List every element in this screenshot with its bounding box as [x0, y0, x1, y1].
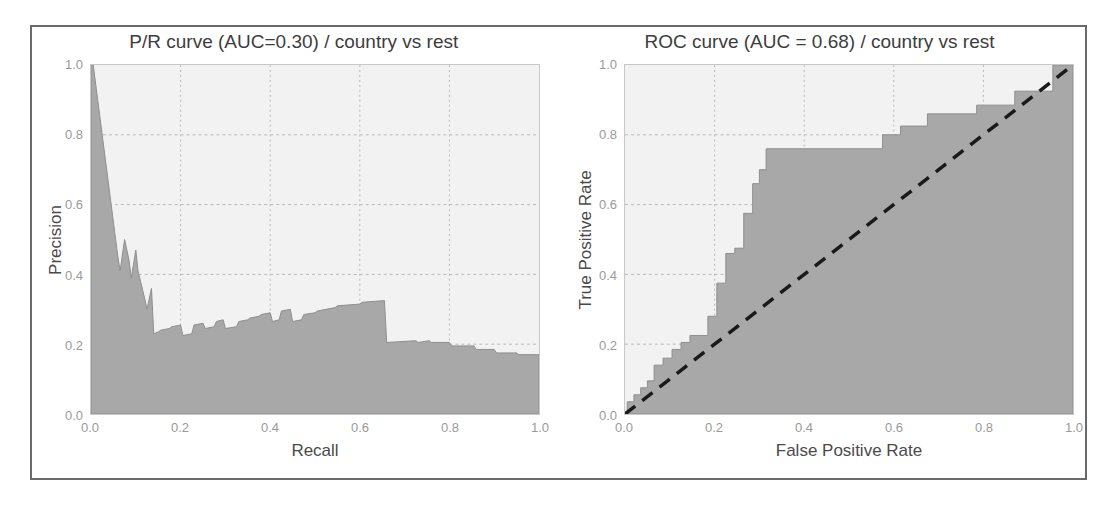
pr-plot-area — [90, 64, 540, 415]
roc-plot-area — [624, 64, 1074, 415]
pr-ytick-4: 0.8 — [65, 127, 83, 142]
pr-curve-area — [91, 65, 539, 414]
pr-xaxis-label: Recall — [291, 441, 338, 461]
roc-curve-panel: ROC curve (AUC = 0.68) / country vs rest — [562, 27, 1089, 478]
roc-ytick-4: 0.8 — [599, 127, 617, 142]
roc-ytick-3: 0.6 — [599, 197, 617, 212]
roc-ytick-5: 1.0 — [599, 57, 617, 72]
pr-xtick-0: 0.0 — [81, 420, 99, 435]
roc-xtick-5: 1.0 — [1065, 420, 1083, 435]
roc-xtick-2: 0.4 — [795, 420, 813, 435]
pr-curve-svg — [91, 65, 539, 414]
pr-xtick-5: 1.0 — [531, 420, 549, 435]
roc-xtick-4: 0.8 — [975, 420, 993, 435]
roc-curve-plot: 0.0 0.2 0.4 0.6 0.8 1.0 0.0 0.2 0.4 0.6 … — [624, 64, 1074, 415]
roc-ytick-1: 0.2 — [599, 337, 617, 352]
pr-xtick-2: 0.4 — [261, 420, 279, 435]
pr-ytick-3: 0.6 — [65, 197, 83, 212]
pr-xtick-4: 0.8 — [441, 420, 459, 435]
roc-xtick-3: 0.6 — [885, 420, 903, 435]
roc-xtick-0: 0.0 — [615, 420, 633, 435]
figure-frame: P/R curve (AUC=0.30) / country vs rest — [30, 25, 1087, 480]
roc-curve-svg — [625, 65, 1073, 414]
roc-xtick-1: 0.2 — [705, 420, 723, 435]
pr-ytick-2: 0.4 — [65, 267, 83, 282]
pr-curve-plot: 0.0 0.2 0.4 0.6 0.8 1.0 0.0 0.2 0.4 0.6 … — [90, 64, 540, 415]
pr-ytick-5: 1.0 — [65, 57, 83, 72]
pr-yaxis-label: Precision — [46, 205, 66, 275]
roc-xaxis-label: False Positive Rate — [776, 441, 922, 461]
roc-yaxis-label: True Positive Rate — [576, 170, 596, 309]
roc-curve-title: ROC curve (AUC = 0.68) / country vs rest — [556, 31, 1083, 53]
pr-curve-title: P/R curve (AUC=0.30) / country vs rest — [50, 31, 538, 53]
roc-ytick-2: 0.4 — [599, 267, 617, 282]
pr-ytick-1: 0.2 — [65, 337, 83, 352]
pr-curve-panel: P/R curve (AUC=0.30) / country vs rest — [32, 27, 562, 478]
pr-xtick-3: 0.6 — [351, 420, 369, 435]
pr-xtick-1: 0.2 — [171, 420, 189, 435]
